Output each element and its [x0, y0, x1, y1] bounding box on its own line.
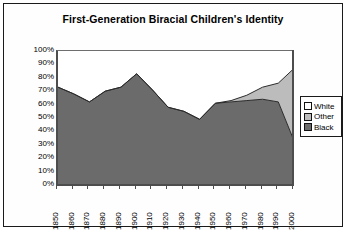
- legend-item-other[interactable]: Other: [304, 112, 339, 121]
- y-tick-label: 50%: [14, 113, 54, 121]
- x-tick-mark: [72, 186, 73, 189]
- legend-item-black[interactable]: Black: [304, 123, 339, 132]
- y-tick-label: 30%: [14, 140, 54, 148]
- legend-swatch-black: [304, 123, 312, 131]
- y-tick-label: 20%: [14, 153, 54, 161]
- y-tick-label: 10%: [14, 167, 54, 175]
- x-tick-mark: [182, 186, 183, 189]
- y-tick-label: 80%: [14, 73, 54, 81]
- x-tick-mark: [103, 186, 104, 189]
- x-tick-mark: [292, 186, 293, 189]
- legend-item-white[interactable]: White: [304, 102, 339, 111]
- legend-swatch-white: [304, 102, 312, 110]
- y-tick-label: 100%: [14, 46, 54, 54]
- x-tick-mark: [87, 186, 88, 189]
- x-tick-mark: [198, 186, 199, 189]
- x-tick-label: 1890: [115, 212, 123, 230]
- x-tick-label: 1920: [162, 212, 170, 230]
- y-tick-label: 0%: [14, 180, 54, 188]
- x-tick-label: 1880: [99, 212, 107, 230]
- legend-swatch-other: [304, 113, 312, 121]
- chart-title: First-Generation Biracial Children's Ide…: [4, 13, 342, 25]
- x-axis: 1850186018701880189019001910192019301940…: [56, 186, 294, 230]
- chart-frame: First-Generation Biracial Children's Ide…: [3, 3, 343, 227]
- x-tick-label: 2000: [288, 212, 296, 230]
- legend-label-white: White: [314, 102, 334, 111]
- x-tick-label: 1980: [257, 212, 265, 230]
- x-tick-label: 1960: [225, 212, 233, 230]
- x-tick-mark: [166, 186, 167, 189]
- x-tick-label: 1930: [178, 212, 186, 230]
- x-tick-mark: [119, 186, 120, 189]
- y-tick-label: 60%: [14, 100, 54, 108]
- legend-label-black: Black: [314, 123, 334, 132]
- y-tick-label: 40%: [14, 126, 54, 134]
- x-tick-mark: [150, 186, 151, 189]
- y-tick-label: 70%: [14, 86, 54, 94]
- x-tick-label: 1970: [241, 212, 249, 230]
- x-tick-mark: [276, 186, 277, 189]
- x-tick-mark: [56, 186, 57, 189]
- x-tick-label: 1940: [194, 212, 202, 230]
- y-axis: 100%90%80%70%60%50%40%30%20%10%0%: [10, 46, 54, 188]
- x-tick-label: 1860: [68, 212, 76, 230]
- legend-label-other: Other: [314, 112, 334, 121]
- chart-legend: White Other Black: [300, 96, 342, 137]
- x-tick-mark: [229, 186, 230, 189]
- x-tick-label: 1870: [83, 212, 91, 230]
- x-tick-mark: [261, 186, 262, 189]
- plot-area: [56, 50, 294, 185]
- x-tick-mark: [213, 186, 214, 189]
- x-tick-label: 1850: [52, 212, 60, 230]
- x-tick-mark: [245, 186, 246, 189]
- x-tick-mark: [135, 186, 136, 189]
- x-tick-label: 1910: [146, 212, 154, 230]
- stacked-area-series: [58, 51, 294, 185]
- y-tick-label: 90%: [14, 59, 54, 67]
- x-tick-label: 1950: [209, 212, 217, 230]
- x-tick-label: 1900: [131, 212, 139, 230]
- x-tick-label: 1990: [272, 212, 280, 230]
- plot-right-edge: [292, 50, 294, 186]
